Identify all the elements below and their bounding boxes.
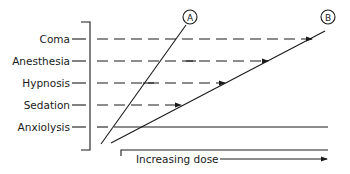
dose-response-diagram: A B — [0, 0, 350, 174]
curve-b-label: B — [325, 13, 331, 23]
label-ticks — [72, 39, 86, 127]
curve-b-line — [111, 31, 325, 143]
dose-bracket — [121, 150, 328, 156]
level-bracket — [81, 22, 90, 150]
curve-a-label: A — [187, 13, 194, 23]
